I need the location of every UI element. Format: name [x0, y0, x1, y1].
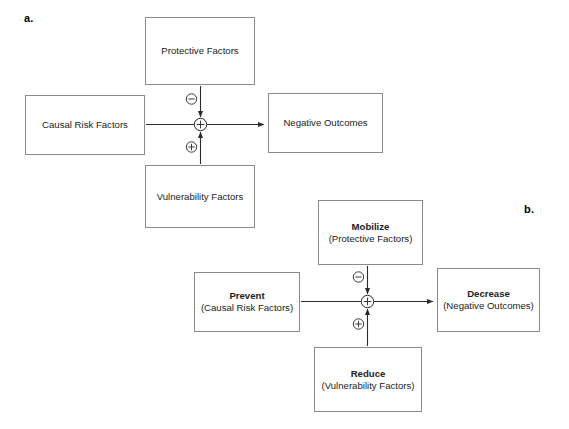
- minus-sign-icon-panel-b: [353, 272, 363, 282]
- box-decrease-title: Decrease: [467, 288, 510, 300]
- minus-sign-icon-panel-a: [186, 94, 196, 104]
- box-causal-risk-factors-label: Causal Risk Factors: [42, 119, 128, 131]
- box-causal-risk-factors: Causal Risk Factors: [25, 95, 145, 155]
- box-decrease: Decrease (Negative Outcomes): [437, 268, 540, 332]
- panel-b-label: b.: [524, 204, 534, 215]
- plus-sign-icon-panel-a: [186, 142, 196, 152]
- box-vulnerability-factors-label: Vulnerability Factors: [157, 191, 244, 203]
- box-reduce-title: Reduce: [351, 368, 386, 380]
- box-prevent-title: Prevent: [229, 290, 264, 302]
- box-negative-outcomes: Negative Outcomes: [268, 93, 383, 153]
- box-prevent: Prevent (Causal Risk Factors): [194, 272, 300, 332]
- box-protective-factors-label: Protective Factors: [161, 45, 238, 57]
- box-prevent-subtitle: (Causal Risk Factors): [201, 302, 293, 314]
- box-protective-factors: Protective Factors: [145, 17, 255, 85]
- box-decrease-subtitle: (Negative Outcomes): [443, 300, 534, 312]
- figure-canvas: a. Protective Factors Causal Risk Factor…: [0, 0, 569, 429]
- connector-layer: [0, 0, 569, 429]
- junction-plus-icon-panel-b: [361, 295, 373, 307]
- plus-sign-icon-panel-b: [353, 319, 363, 329]
- box-mobilize: Mobilize (Protective Factors): [318, 200, 423, 265]
- box-mobilize-title: Mobilize: [352, 221, 390, 233]
- box-vulnerability-factors: Vulnerability Factors: [145, 165, 255, 228]
- box-reduce-subtitle: (Vulnerability Factors): [322, 380, 415, 392]
- box-negative-outcomes-label: Negative Outcomes: [283, 117, 367, 129]
- box-reduce: Reduce (Vulnerability Factors): [314, 347, 422, 412]
- box-mobilize-subtitle: (Protective Factors): [329, 233, 413, 245]
- junction-plus-icon-panel-a: [194, 118, 206, 130]
- panel-a-label: a.: [24, 13, 34, 24]
